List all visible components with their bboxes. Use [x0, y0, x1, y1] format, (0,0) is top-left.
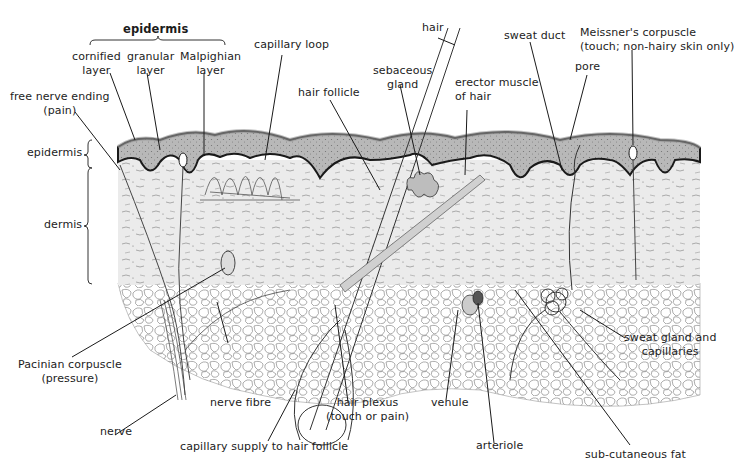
free-nerve-ending-line2: (pain): [10, 104, 110, 118]
malpighian-layer-line1: Malpighian: [180, 50, 241, 64]
subcutaneous-fat-region: [118, 283, 700, 406]
erector-muscle-line1: erector muscle: [455, 76, 539, 90]
malpighian-layer-label: Malpighian layer: [180, 50, 241, 78]
erector-muscle-label: erector muscle of hair: [455, 76, 539, 104]
free-nerve-ending-label: free nerve ending (pain): [10, 90, 110, 118]
pacinian-corpuscle-drawing: [221, 251, 235, 275]
meissners-corpuscle-label: Meissner's corpuscle (touch; non-hairy s…: [580, 26, 734, 54]
malpighian-layer-line2: layer: [180, 64, 241, 78]
epidermis-side-label: epidermis: [27, 146, 82, 160]
dermis-side-brace: [84, 168, 92, 284]
epidermis-group-label: epidermis: [123, 22, 188, 36]
sweat-gland-line1: sweat gland and: [624, 331, 716, 345]
hair-plexus-line1: hair plexus: [326, 396, 409, 410]
pacinian-corpuscle-label: Pacinian corpuscle (pressure): [18, 358, 122, 386]
hair-label: hair: [422, 21, 444, 35]
sub-cutaneous-fat-label: sub-cutaneous fat: [585, 448, 686, 462]
sweat-gland-line2: capillaries: [624, 345, 716, 359]
hair-plexus-label: hair plexus (touch or pain): [326, 396, 409, 424]
pore-label: pore: [575, 60, 600, 74]
granular-layer-line1: granular: [127, 50, 174, 64]
cornified-layer-line2: layer: [72, 64, 121, 78]
venule-label: venule: [431, 396, 469, 410]
sebaceous-gland-line2: gland: [373, 78, 432, 92]
pacinian-corpuscle-line2: (pressure): [18, 372, 122, 386]
arteriole-drawing: [473, 291, 483, 305]
granular-layer-line2: layer: [127, 64, 174, 78]
arteriole-label: arteriole: [476, 439, 523, 453]
cornified-layer-line1: cornified: [72, 50, 121, 64]
cornified-layer-label: cornified layer: [72, 50, 121, 78]
sebaceous-gland-label: sebaceous gland: [373, 64, 432, 92]
nerve-fibre-label: nerve fibre: [210, 396, 271, 410]
free-nerve-ending-line1: free nerve ending: [10, 90, 110, 104]
sweat-duct-label: sweat duct: [504, 29, 565, 43]
capillary-loop-label: capillary loop: [254, 38, 329, 52]
pacinian-corpuscle-line1: Pacinian corpuscle: [18, 358, 122, 372]
nerve-label: nerve: [100, 425, 132, 439]
meissners-corpuscle-line2: (touch; non-hairy skin only): [580, 40, 734, 54]
sweat-gland-label: sweat gland and capillaries: [624, 331, 716, 359]
sebaceous-gland-line1: sebaceous: [373, 64, 432, 78]
capillary-supply-label: capillary supply to hair follicle: [180, 440, 348, 454]
epidermis-side-brace: [84, 140, 92, 168]
dermis-side-label: dermis: [44, 218, 82, 232]
granular-layer-label: granular layer: [127, 50, 174, 78]
epidermis-group-brace: [90, 36, 225, 45]
erector-muscle-line2: of hair: [455, 90, 539, 104]
hair-follicle-label: hair follicle: [298, 86, 360, 100]
meissners-corpuscle-line1: Meissner's corpuscle: [580, 26, 734, 40]
meissners-corpuscle-drawing: [629, 146, 637, 160]
hair-plexus-line2: (touch or pain): [326, 410, 409, 424]
